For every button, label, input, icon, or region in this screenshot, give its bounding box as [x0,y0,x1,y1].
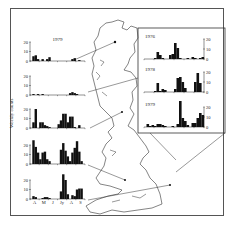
bar [78,125,80,128]
bar [194,82,197,92]
bar [41,122,43,128]
bar [199,83,202,92]
panel-year-label: 1976 [145,34,156,39]
svg-text:0: 0 [26,126,29,131]
svg-text:0: 0 [26,59,29,64]
svg-text:0: 0 [26,93,29,98]
bar [48,127,50,128]
bar [71,153,73,164]
bar [78,60,80,61]
bar [32,56,34,61]
bar [80,161,82,164]
svg-text:0: 0 [26,162,29,167]
svg-text:0: 0 [206,125,209,130]
bar [74,127,76,128]
left-panel-4: 01020 [24,140,86,166]
svg-text:10: 10 [24,152,29,157]
bar [44,197,46,199]
left-panel-3: 01020 [24,107,86,131]
bar [192,57,195,59]
bar [67,194,69,199]
bar [197,118,200,127]
bar [41,94,43,95]
bar [74,58,76,61]
x-tick-label: M [42,200,46,205]
bar [169,55,172,59]
bar [58,124,60,128]
link-line [88,165,125,180]
svg-text:20: 20 [24,40,29,45]
svg-text:20: 20 [24,74,29,79]
bar [199,58,202,59]
left-panel-1: 010201979 [24,37,86,64]
bar [179,101,182,127]
svg-text:20: 20 [206,70,211,75]
svg-text:0: 0 [206,57,209,62]
bar [184,121,187,127]
left-panel-2: 01020 [24,74,86,98]
bar [172,126,175,127]
bar [60,120,62,128]
inset-panel-3: 010201979 [144,101,211,130]
svg-text:20: 20 [206,105,211,110]
bar [69,93,71,95]
bar [74,148,76,164]
map-outline [86,20,162,214]
bar [41,198,43,199]
bar [80,189,82,199]
bar [62,143,64,164]
svg-text:10: 10 [24,83,29,88]
bar [157,83,160,92]
svg-text:20: 20 [24,107,29,112]
bar [182,118,185,127]
bar [159,91,162,92]
bar [177,124,180,127]
figure-canvas: 01020197901020010200102001020AMJJyAS0102… [0,0,234,229]
bar [60,191,62,199]
bar [44,125,46,128]
bar [64,114,66,128]
bar [179,77,182,92]
svg-text:10: 10 [206,80,211,85]
bar [182,82,185,92]
bar [154,126,157,127]
x-tick-label: Jy [60,200,65,205]
bar [154,91,157,92]
map-coast-detail [96,60,146,202]
bar [147,124,150,127]
bar [37,59,39,61]
bar [78,189,80,199]
svg-text:0: 0 [206,90,209,95]
bar [46,159,48,164]
bar [184,88,187,92]
bar [177,78,180,92]
bar [32,94,34,95]
bar [67,156,69,164]
link-line [176,133,225,172]
bar [74,93,76,95]
bar [162,58,165,59]
bar [69,117,71,128]
bar [62,114,64,128]
bar [194,58,197,59]
bar [157,52,160,59]
bar [194,123,197,127]
bar [71,59,73,61]
bar [74,196,76,199]
panel-year-label: 1979 [53,37,64,42]
bar [154,58,157,59]
bar [162,125,165,127]
bar [41,59,43,61]
link-line [88,185,170,200]
bar [159,124,162,127]
bar [164,90,167,92]
bar [46,126,48,128]
bar [48,57,50,61]
inset-panel-2: 010201978 [144,67,211,95]
bar [152,125,155,127]
bar [71,117,73,128]
y-axis-label: Weekly counts [9,98,14,128]
bar [48,161,50,164]
link-line [88,78,138,92]
bar [71,92,73,95]
